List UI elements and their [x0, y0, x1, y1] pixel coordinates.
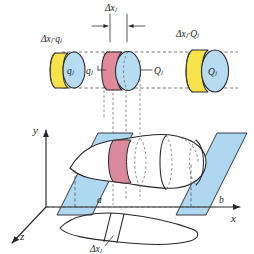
outer-disk-top-label: Δxⱼ·Qⱼ — [175, 29, 200, 39]
y-axis-label: y — [32, 124, 38, 136]
delta-x-top-label: Δxⱼ — [104, 3, 118, 13]
z-axis — [12, 207, 46, 243]
slice-inner-label: qⱼ — [86, 66, 94, 76]
delta-x-bottom-label: Δxⱼ — [89, 244, 103, 254]
inner-disk-top-label: Δxⱼ·qⱼ — [40, 34, 63, 44]
delta-x-top-measure — [92, 14, 145, 42]
slice-disk — [102, 52, 141, 91]
figure-svg: Δxⱼ qⱼ Δxⱼ·qⱼ qⱼ Qⱼ — [0, 0, 254, 254]
slice-disk-face — [116, 52, 141, 91]
x-axis-label: x — [230, 212, 236, 224]
bound-a-label: a — [97, 195, 102, 205]
slice-outer-label: Qⱼ — [154, 66, 164, 76]
inner-disk-inner-label: qⱼ — [67, 66, 75, 76]
z-axis-label: z — [19, 230, 25, 242]
outer-disk-inner-label: Qⱼ — [208, 67, 218, 77]
bound-b-label: b — [219, 195, 224, 205]
figure-container: Δxⱼ qⱼ Δxⱼ·qⱼ qⱼ Qⱼ — [0, 0, 254, 254]
solid-projection — [60, 213, 198, 244]
